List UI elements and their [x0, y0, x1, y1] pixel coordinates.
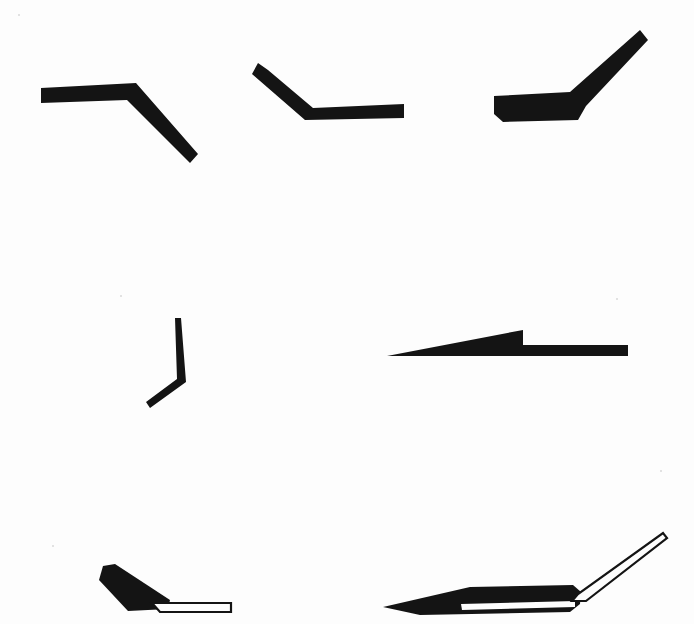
figure-drawing	[0, 0, 694, 624]
figure-canvas	[0, 0, 694, 624]
angled-blade-hollow-shank	[152, 603, 231, 612]
